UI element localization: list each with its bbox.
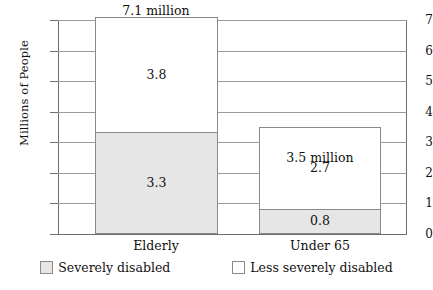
- y-tick-mark-5: [50, 81, 58, 82]
- y-tick-label-2: 2: [411, 167, 433, 179]
- y-tick-label-0: 0: [411, 228, 433, 240]
- bar-total-under-65: 3.5 million: [235, 152, 405, 165]
- plot-area: 3.8 3.3 2.7 0.8: [58, 20, 407, 234]
- legend-swatch-icon-less-severely-disabled: [232, 261, 245, 274]
- bar-elderly-value-severe: 3.3: [147, 177, 167, 190]
- legend-swatch-icon-severely-disabled: [40, 261, 53, 274]
- y-tick-label-6: 6: [411, 45, 433, 57]
- y-tick-mark-7: [50, 20, 58, 21]
- gridline-0-baseline: [58, 234, 407, 235]
- bar-under-65-value-severe: 0.8: [310, 215, 330, 228]
- y-axis-title: Millions of People: [17, 13, 31, 173]
- y-tick-label-5: 5: [411, 75, 433, 87]
- y-tick-mark-0: [50, 234, 58, 235]
- y-tick-label-1: 1: [411, 197, 433, 209]
- y-tick-label-7: 7: [411, 14, 433, 26]
- bar-elderly-segment-less-severe[interactable]: 3.8: [95, 17, 218, 133]
- chart-legend: Severely disabled Less severely disabled: [0, 260, 433, 275]
- bar-under-65-segment-severe[interactable]: 0.8: [259, 209, 381, 234]
- stacked-bar-chart: Millions of People 7 6 5 4 3 2 1 0 3.: [0, 0, 433, 290]
- y-tick-mark-6: [50, 51, 58, 52]
- legend-label-less-severely-disabled: Less severely disabled: [250, 260, 392, 275]
- x-axis-label-under-65: Under 65: [235, 240, 405, 253]
- bar-total-elderly: 7.1 million: [71, 5, 241, 18]
- bar-elderly-segment-severe[interactable]: 3.3: [95, 132, 218, 234]
- y-tick-mark-2: [50, 173, 58, 174]
- x-axis-label-elderly: Elderly: [71, 240, 241, 253]
- y-tick-mark-3: [50, 142, 58, 143]
- bar-under-65-segment-less-severe[interactable]: 2.7: [259, 127, 381, 210]
- legend-label-severely-disabled: Severely disabled: [58, 260, 170, 275]
- bar-under-65[interactable]: 2.7 0.8: [259, 127, 381, 234]
- y-tick-label-4: 4: [411, 106, 433, 118]
- y-tick-mark-1: [50, 203, 58, 204]
- y-tick-label-3: 3: [411, 136, 433, 148]
- legend-item-less-severely-disabled[interactable]: Less severely disabled: [232, 260, 392, 275]
- legend-item-severely-disabled[interactable]: Severely disabled: [40, 260, 170, 275]
- y-tick-mark-4: [50, 112, 58, 113]
- bar-elderly-value-less-severe: 3.8: [147, 69, 167, 82]
- bar-elderly[interactable]: 3.8 3.3: [95, 17, 218, 234]
